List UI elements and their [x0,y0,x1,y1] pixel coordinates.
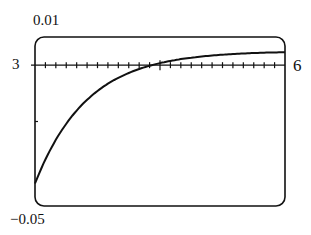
data-curve [35,52,285,183]
chart-plot [0,0,311,235]
x-axis [31,60,285,70]
